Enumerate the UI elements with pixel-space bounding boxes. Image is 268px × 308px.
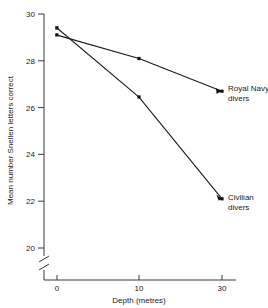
annotation-royal-navy-line2: divers [228,94,249,103]
y-tick-label-30: 30 [26,10,35,19]
x-tick-marks [57,275,222,280]
series-line-civilian [57,28,222,199]
chart-container: 30 28 26 24 22 20 Mean number Snellen le… [0,0,268,308]
y-tick-label-22: 22 [26,197,35,206]
y-tick-marks [38,14,44,248]
line-chart: 30 28 26 24 22 20 Mean number Snellen le… [0,0,268,308]
y-tick-label-28: 28 [26,57,35,66]
annotation-royal-navy-line1: Royal Navy [228,84,268,93]
y-tick-label-26: 26 [26,104,35,113]
y-tick-label-24: 24 [26,150,35,159]
x-axis-title: Depth (metres) [112,296,166,305]
x-tick-label-30: 30 [218,284,227,293]
x-tick-label-0: 0 [55,284,60,293]
annotation-civilian-line2: divers [228,203,249,212]
y-axis-break-icon [39,256,49,270]
x-tick-label-10: 10 [135,284,144,293]
y-axis-title: Mean number Snellen letters correct [6,75,15,205]
series-line-royal-navy [57,35,222,91]
annotation-civilian-line1: Civilian [228,193,254,202]
y-tick-label-20: 20 [26,244,35,253]
annotation-arrow-royal-navy [216,88,222,94]
series-markers-civilian [55,26,223,200]
